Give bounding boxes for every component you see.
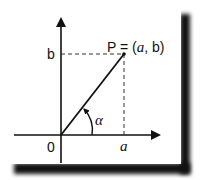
angle-arc	[84, 109, 92, 135]
vector-line	[61, 54, 124, 135]
y-value-label: b	[47, 46, 55, 62]
point-label: P = (a, b)	[107, 39, 164, 55]
angle-label: α	[95, 112, 104, 128]
coordinate-diagram: P = (a, b) b a 0 α	[0, 0, 200, 180]
origin-label: 0	[47, 139, 55, 155]
x-value-label: a	[120, 138, 128, 154]
